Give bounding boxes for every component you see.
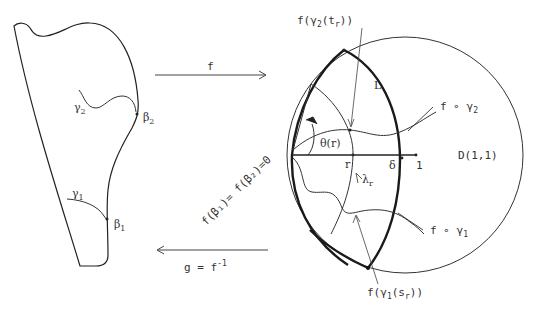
axis-label-r: r (345, 158, 351, 171)
inverse-map-label: g = f-1 (184, 259, 227, 274)
f-gamma1-sr-label: f(γ1(sr)) (367, 286, 423, 301)
callout-bottom-arrow-head-icon (353, 215, 360, 223)
beta-2-point (136, 113, 139, 116)
theta-angle-arc (308, 124, 314, 155)
right-domain: D(1,1) L θ(r) r δ 1 λr f ∘ γ2 f ∘ γ1 f(γ… (199, 14, 523, 301)
lambda-r-label: λr (362, 173, 373, 188)
angle-label: θ(r) (320, 137, 340, 150)
bottom-corner-point (366, 266, 370, 270)
f-gamma-2-curve (293, 112, 436, 150)
f-gamma-2-leader (408, 107, 433, 131)
beta-1-label: β1 (114, 218, 125, 233)
point-delta (401, 157, 404, 160)
region-label: L (374, 79, 382, 92)
callout-line-bottom (356, 216, 378, 284)
region-left-boundary (292, 50, 348, 265)
origin-label: f(β₁)= f(β₂)=0 (199, 153, 274, 228)
theta-arrow-head-icon (306, 117, 317, 124)
gamma-2-curve (79, 90, 136, 112)
left-domain: γ2 β2 γ1 β1 (14, 23, 154, 266)
conformal-map-diagram: γ2 β2 γ1 β1 f g = f-1 (0, 0, 533, 314)
angle-ray (293, 84, 311, 150)
callout-line-top (351, 28, 362, 126)
beta-2-label: β2 (143, 111, 154, 126)
beta-1-point (106, 218, 109, 221)
top-corner-point (342, 48, 345, 51)
gamma-1-label: γ1 (72, 187, 84, 202)
gamma-2-label: γ2 (74, 101, 86, 116)
diagram-canvas: γ2 β2 γ1 β1 f g = f-1 (0, 0, 533, 314)
f-gamma2-tr-label: f(γ2(tr)) (297, 14, 353, 29)
f-gamma-1-leader (398, 213, 423, 230)
forward-map: f (155, 60, 266, 79)
forward-map-label: f (207, 60, 214, 73)
f-gamma-1-label: f ∘ γ1 (430, 224, 468, 239)
inverse-map: g = f-1 (157, 246, 268, 274)
axis-label-delta: δ (389, 159, 396, 172)
gamma-1-curve (67, 199, 107, 219)
disk-label: D(1,1) (458, 149, 498, 162)
point-one (415, 154, 418, 157)
f-gamma2-tr-point (349, 129, 352, 132)
f-gamma-2-label: f ∘ γ2 (440, 100, 478, 115)
axis-label-one: 1 (416, 159, 423, 172)
